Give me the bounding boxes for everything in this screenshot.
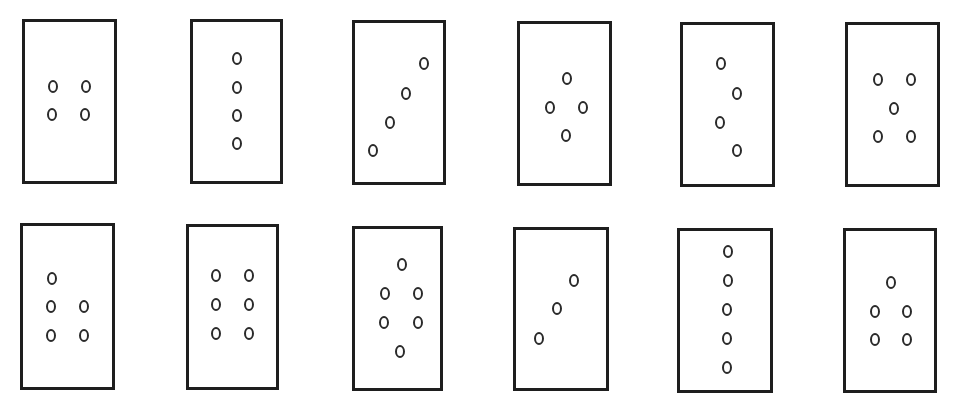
card-9 bbox=[352, 226, 443, 391]
card-7 bbox=[20, 223, 115, 390]
circle-icon bbox=[232, 81, 242, 94]
circle-icon bbox=[46, 300, 56, 313]
circle-icon bbox=[232, 52, 242, 65]
card-3 bbox=[352, 20, 446, 185]
circle-icon bbox=[79, 300, 89, 313]
circle-icon bbox=[80, 108, 90, 121]
card-1 bbox=[22, 19, 117, 184]
circle-icon bbox=[244, 298, 254, 311]
circle-icon bbox=[419, 57, 429, 70]
circle-icon bbox=[232, 109, 242, 122]
circle-icon bbox=[211, 269, 221, 282]
dot-card-figure bbox=[0, 0, 957, 411]
circle-icon bbox=[232, 137, 242, 150]
card-5 bbox=[680, 22, 775, 187]
circle-icon bbox=[379, 316, 389, 329]
circle-icon bbox=[47, 272, 57, 285]
circle-icon bbox=[715, 116, 725, 129]
card-8 bbox=[186, 224, 279, 390]
circle-icon bbox=[47, 108, 57, 121]
circle-icon bbox=[211, 327, 221, 340]
circle-icon bbox=[368, 144, 378, 157]
circle-icon bbox=[545, 101, 555, 114]
circle-icon bbox=[48, 80, 58, 93]
circle-icon bbox=[578, 101, 588, 114]
circle-icon bbox=[413, 287, 423, 300]
circle-icon bbox=[732, 144, 742, 157]
circle-icon bbox=[873, 73, 883, 86]
circle-icon bbox=[380, 287, 390, 300]
circle-icon bbox=[723, 274, 733, 287]
circle-icon bbox=[244, 327, 254, 340]
circle-icon bbox=[211, 298, 221, 311]
card-2 bbox=[190, 19, 283, 184]
circle-icon bbox=[886, 276, 896, 289]
card-12 bbox=[843, 228, 937, 393]
circle-icon bbox=[534, 332, 544, 345]
circle-icon bbox=[244, 269, 254, 282]
circle-icon bbox=[722, 332, 732, 345]
circle-icon bbox=[902, 333, 912, 346]
circle-icon bbox=[732, 87, 742, 100]
circle-icon bbox=[722, 361, 732, 374]
circle-icon bbox=[401, 87, 411, 100]
circle-icon bbox=[902, 305, 912, 318]
circle-icon bbox=[723, 245, 733, 258]
circle-icon bbox=[906, 130, 916, 143]
circle-icon bbox=[870, 305, 880, 318]
circle-icon bbox=[889, 102, 899, 115]
circle-icon bbox=[716, 57, 726, 70]
circle-icon bbox=[413, 316, 423, 329]
circle-icon bbox=[79, 329, 89, 342]
circle-icon bbox=[906, 73, 916, 86]
circle-icon bbox=[552, 302, 562, 315]
circle-icon bbox=[569, 274, 579, 287]
circle-icon bbox=[870, 333, 880, 346]
circle-icon bbox=[385, 116, 395, 129]
circle-icon bbox=[873, 130, 883, 143]
circle-icon bbox=[722, 303, 732, 316]
card-4 bbox=[517, 21, 612, 186]
circle-icon bbox=[561, 129, 571, 142]
circle-icon bbox=[397, 258, 407, 271]
circle-icon bbox=[81, 80, 91, 93]
circle-icon bbox=[395, 345, 405, 358]
circle-icon bbox=[562, 72, 572, 85]
circle-icon bbox=[46, 329, 56, 342]
